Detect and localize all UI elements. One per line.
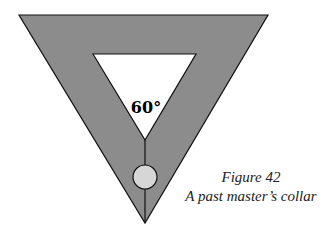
collar-diagram: 60° Figure 42 A past master’s collar: [0, 0, 330, 235]
figure-title: Figure 42: [220, 169, 281, 185]
jewel-circle: [133, 165, 157, 189]
figure-caption: A past master’s collar: [184, 188, 316, 204]
angle-label: 60°: [131, 98, 161, 117]
